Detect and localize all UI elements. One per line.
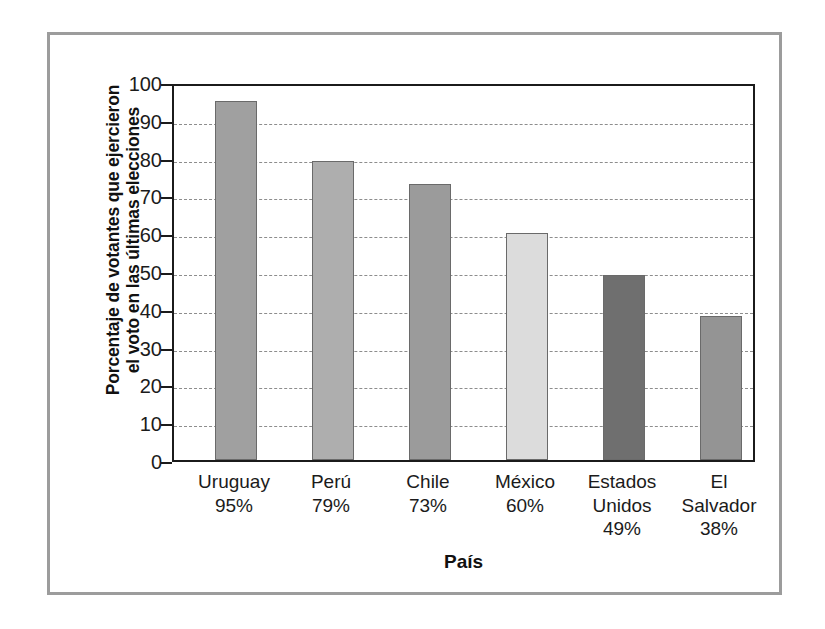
gridline-10 xyxy=(174,426,753,427)
y-tick-40 xyxy=(161,311,172,313)
y-tick-0 xyxy=(161,462,172,464)
y-tick-label-50: 50 xyxy=(110,262,162,285)
y-tick-label-70: 70 xyxy=(110,186,162,209)
x-tick-percentage: 38% xyxy=(660,517,778,541)
y-tick-label-20: 20 xyxy=(110,375,162,398)
y-tick-70 xyxy=(161,197,172,199)
gridline-90 xyxy=(174,124,753,125)
bar[interactable] xyxy=(215,101,257,460)
y-tick-100 xyxy=(161,84,172,86)
plot-area xyxy=(172,84,755,462)
bar[interactable] xyxy=(700,316,742,460)
bar[interactable] xyxy=(312,161,354,460)
x-axis-title: País xyxy=(172,551,755,573)
bar[interactable] xyxy=(603,275,645,460)
bar[interactable] xyxy=(409,184,451,460)
y-tick-label-0: 0 xyxy=(110,451,162,474)
y-tick-10 xyxy=(161,424,172,426)
y-tick-80 xyxy=(161,160,172,162)
y-tick-50 xyxy=(161,273,172,275)
bar[interactable] xyxy=(506,233,548,460)
y-tick-label-40: 40 xyxy=(110,299,162,322)
x-tick-country: El Salvador xyxy=(660,470,778,517)
y-axis-tick-labels: 1009080706050403020100 xyxy=(110,0,162,629)
figure: Porcentaje de votantes que ejercieron el… xyxy=(0,0,825,629)
gridline-80 xyxy=(174,162,753,163)
y-tick-label-10: 10 xyxy=(110,413,162,436)
y-tick-label-90: 90 xyxy=(110,110,162,133)
gridline-30 xyxy=(174,351,753,352)
gridline-20 xyxy=(174,388,753,389)
y-tick-20 xyxy=(161,386,172,388)
y-tick-90 xyxy=(161,122,172,124)
y-tick-label-30: 30 xyxy=(110,337,162,360)
y-tick-label-100: 100 xyxy=(110,73,162,96)
gridline-60 xyxy=(174,237,753,238)
gridline-50 xyxy=(174,275,753,276)
gridline-40 xyxy=(174,313,753,314)
x-tick-label: El Salvador38% xyxy=(660,470,778,541)
gridline-70 xyxy=(174,199,753,200)
y-tick-label-60: 60 xyxy=(110,224,162,247)
y-tick-60 xyxy=(161,235,172,237)
y-tick-label-80: 80 xyxy=(110,148,162,171)
y-tick-30 xyxy=(161,349,172,351)
